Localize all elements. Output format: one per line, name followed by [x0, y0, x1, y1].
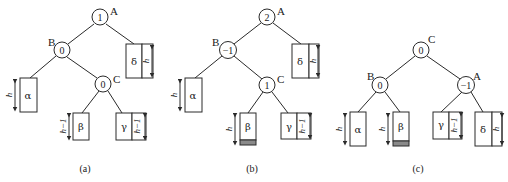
node-a: 1 A	[92, 5, 118, 25]
subtree-alpha: α h	[4, 78, 37, 112]
subtree-label: β	[78, 121, 84, 132]
node-label: C	[277, 73, 284, 85]
balance-factor: 0	[378, 80, 383, 91]
balance-factor: 1	[98, 12, 103, 23]
height-label: h	[169, 92, 179, 97]
subtree-label: δ	[297, 56, 303, 67]
height-label: h−1	[449, 117, 459, 132]
subtree-delta: δ h	[126, 44, 153, 78]
node-b: 0 B	[367, 70, 388, 93]
subtree-beta: β h	[377, 112, 409, 146]
node-c: 0 C	[413, 33, 435, 58]
avl-rotation-diagram: 1 A 0 B 0 C δ h α h	[0, 0, 508, 182]
balance-factor: −1	[461, 80, 472, 91]
subtree-label: γ	[286, 121, 292, 132]
height-label: h	[224, 126, 234, 131]
balance-factor: 0	[60, 45, 65, 56]
subtree-alpha: α h	[169, 78, 202, 112]
subtree-beta: β h	[224, 113, 256, 145]
node-c: 1 C	[259, 73, 284, 93]
subtree-label: α	[355, 124, 362, 135]
height-label: h	[334, 126, 344, 131]
node-a: 2 A	[259, 5, 285, 25]
height-label: h	[141, 58, 151, 63]
subtree-label: δ	[480, 124, 486, 135]
node-label: B	[367, 70, 374, 82]
balance-factor: 1	[265, 80, 270, 91]
inserted-node-shade	[240, 140, 256, 145]
balance-factor: 0	[419, 45, 424, 56]
subtree-label: α	[25, 90, 32, 101]
balance-factor: 2	[265, 12, 270, 23]
panel-caption: (a)	[79, 163, 90, 175]
subtree-alpha: α h	[334, 112, 366, 146]
panel-a: 1 A 0 B 0 C δ h α h	[4, 5, 153, 175]
subtree-label: β	[245, 121, 251, 132]
subtree-label: γ	[121, 121, 127, 132]
node-b: 0 B	[48, 36, 70, 58]
subtree-gamma: γ h−1	[281, 113, 311, 139]
panel-b: 2 A −1 B 1 C δ h α h β	[169, 5, 319, 175]
height-label: h	[4, 92, 14, 97]
subtree-delta: δ h	[475, 112, 502, 146]
node-label: A	[473, 70, 481, 82]
height-label: h	[377, 126, 387, 131]
subtree-gamma: γ h−1	[433, 112, 462, 139]
node-label: B	[212, 36, 219, 48]
subtree-label: β	[398, 121, 404, 132]
node-label: B	[48, 36, 55, 48]
node-c: 0 C	[95, 73, 120, 92]
node-a: −1 A	[458, 70, 482, 94]
subtree-beta: β h−1	[58, 113, 89, 140]
subtree-gamma: γ h−1	[116, 113, 146, 140]
subtree-label: δ	[131, 56, 137, 67]
inserted-node-shade	[393, 141, 409, 146]
height-label: h−1	[297, 118, 307, 133]
subtree-label: α	[190, 90, 197, 101]
node-label: A	[277, 5, 285, 17]
height-label: h	[491, 126, 501, 131]
height-label: h−1	[132, 118, 142, 133]
height-label: h−1	[58, 118, 68, 133]
node-label: C	[428, 33, 435, 45]
node-b: −1 B	[212, 36, 237, 59]
panel-caption: (c)	[412, 163, 423, 175]
panel-c: 0 C 0 B −1 A α h β h γ	[334, 33, 502, 175]
balance-factor: 0	[101, 79, 106, 90]
height-label: h	[308, 58, 318, 63]
node-label: C	[113, 73, 120, 85]
balance-factor: −1	[223, 45, 234, 56]
subtree-label: γ	[438, 119, 444, 130]
panel-caption: (b)	[246, 163, 258, 175]
subtree-delta: δ h	[292, 44, 319, 78]
node-label: A	[110, 5, 118, 17]
